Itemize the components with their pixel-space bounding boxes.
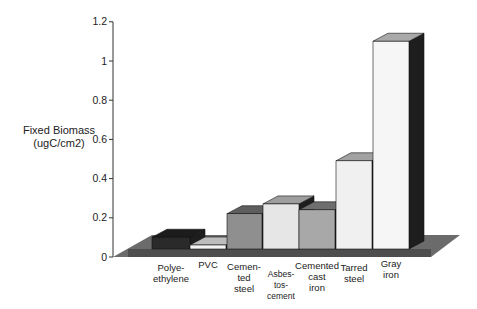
y-tick-label: 0.4 xyxy=(92,172,107,184)
y-tick-label: 1 xyxy=(101,55,107,67)
y-axis-title: Fixed Biomass (ugC/cm2) xyxy=(14,124,104,150)
y-tick-label: 1.2 xyxy=(92,15,107,27)
bars xyxy=(152,33,424,249)
y-axis-title-line-2: (ugC/cm2) xyxy=(14,137,104,150)
y-tick-label: 0 xyxy=(101,251,107,263)
bar xyxy=(373,33,424,249)
y-axis-title-line-1: Fixed Biomass xyxy=(14,124,104,137)
y-tick-label: 0.2 xyxy=(92,211,107,223)
y-tick-label: 0.8 xyxy=(92,94,107,106)
x-tick-label: Gray iron xyxy=(361,258,421,280)
